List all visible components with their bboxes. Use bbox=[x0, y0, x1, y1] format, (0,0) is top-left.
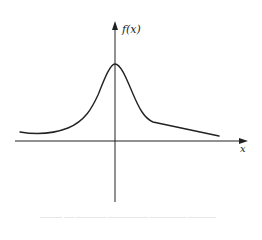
faint-caption bbox=[40, 206, 220, 210]
x-axis bbox=[15, 138, 248, 144]
y-axis bbox=[112, 21, 118, 202]
y-axis-label: f(x) bbox=[122, 23, 141, 36]
y-axis-arrow-icon bbox=[112, 21, 118, 30]
function-curve bbox=[20, 64, 219, 136]
x-axis-label: x bbox=[240, 143, 246, 154]
